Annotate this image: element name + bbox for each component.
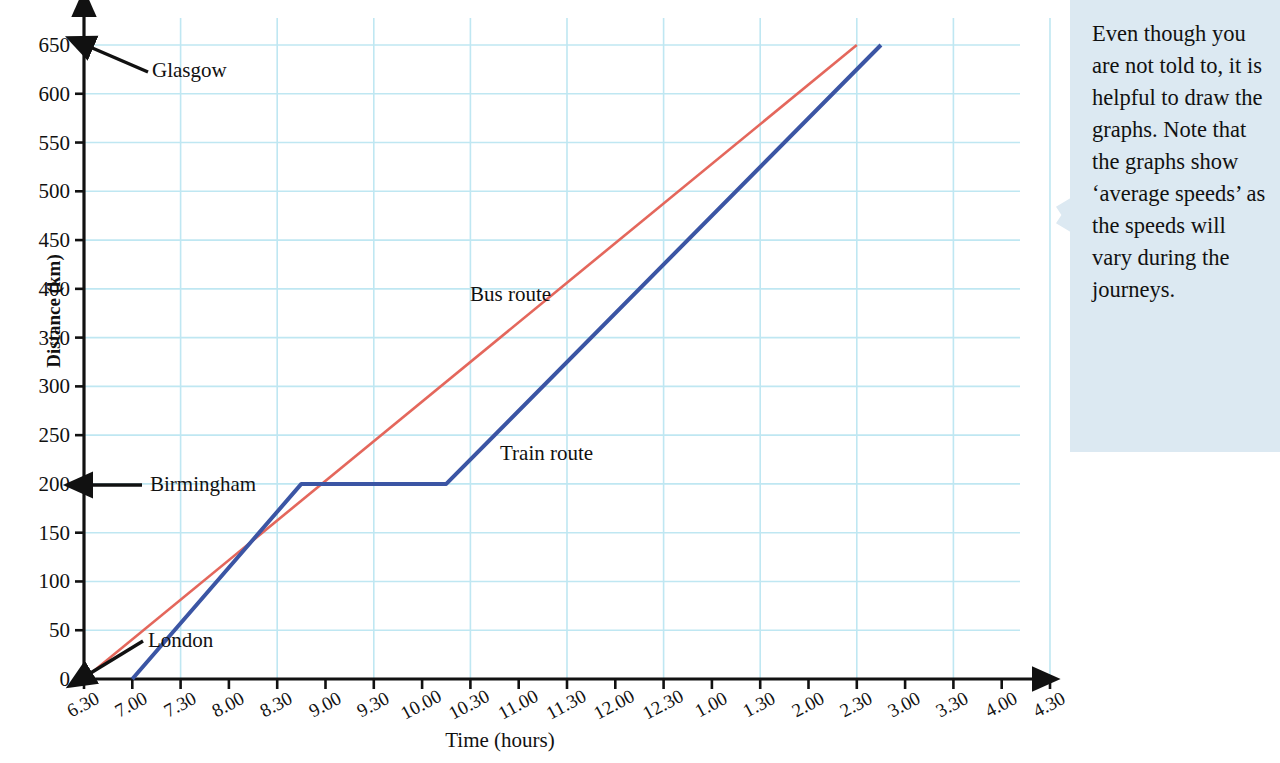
train-route-line (132, 45, 881, 679)
london-label: London (148, 628, 213, 653)
y-tick-label: 550 (10, 133, 70, 154)
callout-box: Even though you are not told to, it is h… (1070, 0, 1280, 452)
bus-route-label: Bus route (470, 282, 551, 307)
y-tick-label: 0 (10, 669, 70, 690)
horizontal-gridlines (84, 45, 1020, 679)
x-axis-title: Time (hours) (360, 728, 640, 753)
y-tick-label: 500 (10, 181, 70, 202)
birmingham-label: Birmingham (150, 472, 256, 497)
y-axis-title: Distance (km) (43, 221, 65, 401)
callout-text: Even though you are not told to, it is h… (1092, 18, 1266, 305)
diagram-root: 050100150200250300350400450500550600650 … (0, 0, 1280, 763)
london-arrow (89, 641, 143, 674)
y-tick-label: 150 (10, 523, 70, 544)
y-tick-label: 200 (10, 474, 70, 495)
train-route-label: Train route (500, 441, 593, 466)
distance-time-graph: 050100150200250300350400450500550600650 … (0, 0, 1060, 763)
y-tick-label: 50 (10, 620, 70, 641)
y-tick-label: 250 (10, 425, 70, 446)
y-tick-label: 100 (10, 571, 70, 592)
vertical-gridlines (84, 18, 1050, 679)
glasgow-arrow (90, 47, 148, 72)
y-tick-label: 600 (10, 84, 70, 105)
glasgow-label: Glasgow (152, 58, 227, 83)
y-tick-label: 650 (10, 35, 70, 56)
